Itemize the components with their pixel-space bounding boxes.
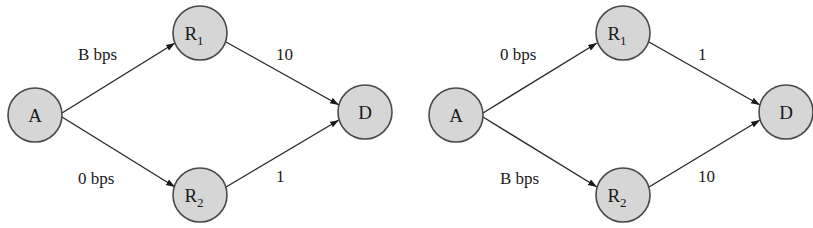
svg-text:A: A	[28, 105, 42, 126]
diagram-left: B bps 0 bps 10 1 A R1 R2 D	[8, 6, 392, 222]
node-d: D	[759, 85, 813, 139]
diagram-right: 0 bps B bps 1 10 A R1 R2 D	[429, 6, 813, 222]
routing-diagrams: B bps 0 bps 10 1 A R1 R2 D 0 bps B bps 1…	[0, 0, 813, 228]
svg-text:A: A	[449, 105, 463, 126]
edge-label-r1-d: 10	[276, 45, 293, 64]
svg-text:D: D	[358, 102, 372, 123]
node-a: A	[8, 88, 62, 142]
edge-label-r2-d: 1	[276, 167, 285, 186]
edge-label-a-r2: 0 bps	[78, 169, 114, 188]
node-r2: R2	[596, 168, 650, 222]
node-r2: R2	[173, 168, 227, 222]
edge-label-a-r2: B bps	[500, 169, 539, 188]
node-d: D	[338, 85, 392, 139]
edge-label-a-r1: 0 bps	[500, 45, 536, 64]
node-r1: R1	[596, 6, 650, 60]
edge-label-a-r1: B bps	[78, 45, 117, 64]
node-a: A	[429, 88, 483, 142]
node-r1: R1	[173, 6, 227, 60]
svg-text:D: D	[779, 102, 793, 123]
edge-label-r2-d: 10	[698, 167, 715, 186]
edge-label-r1-d: 1	[698, 45, 707, 64]
